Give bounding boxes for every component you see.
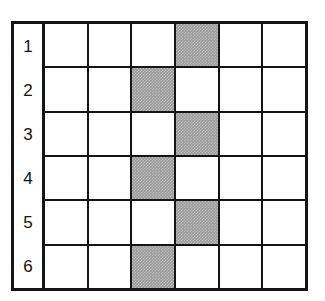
grid-row — [45, 24, 305, 68]
row-label-5: 5 — [14, 200, 42, 244]
row-label-column: 1 2 3 4 5 6 — [14, 24, 45, 288]
grid-cell-empty — [132, 201, 176, 243]
grid-cell-shaded — [132, 68, 176, 110]
grid-cell-empty — [263, 201, 305, 243]
grid-cell-empty — [89, 68, 133, 110]
grid-cell-empty — [220, 113, 264, 155]
grid-cell-empty — [89, 157, 133, 199]
grid-cell-shaded — [176, 113, 220, 155]
grid-cell-empty — [176, 68, 220, 110]
grid-cell-empty — [132, 113, 176, 155]
grid-cell-empty — [263, 113, 305, 155]
grid-cell-empty — [45, 246, 89, 288]
grid-cell-empty — [220, 246, 264, 288]
grid-cell-empty — [89, 201, 133, 243]
grid-row — [45, 113, 305, 157]
grid-cell-empty — [45, 113, 89, 155]
grid-cell-empty — [89, 24, 133, 66]
row-label-4: 4 — [14, 156, 42, 200]
grid-row — [45, 68, 305, 112]
grid-cell-empty — [176, 157, 220, 199]
grid-cell-empty — [263, 157, 305, 199]
row-label-1: 1 — [14, 24, 42, 68]
grid-cell-empty — [89, 113, 133, 155]
cell-matrix — [45, 24, 305, 288]
grid-cell-shaded — [132, 246, 176, 288]
grid-row — [45, 246, 305, 288]
grid-cell-empty — [176, 246, 220, 288]
grid-row — [45, 201, 305, 245]
grid-cell-empty — [220, 157, 264, 199]
grid-row — [45, 157, 305, 201]
grid-cell-empty — [263, 246, 305, 288]
grid-cell-empty — [263, 24, 305, 66]
grid-cell-empty — [132, 24, 176, 66]
row-label-3: 3 — [14, 112, 42, 156]
grid-cell-empty — [89, 246, 133, 288]
grid-cell-empty — [220, 201, 264, 243]
grid-cell-shaded — [132, 157, 176, 199]
row-label-6: 6 — [14, 244, 42, 288]
grid-cell-empty — [45, 201, 89, 243]
row-label-2: 2 — [14, 68, 42, 112]
grid-cell-empty — [45, 157, 89, 199]
grid-cell-empty — [220, 68, 264, 110]
grid-cell-shaded — [176, 201, 220, 243]
grid-cell-empty — [263, 68, 305, 110]
grid-cell-empty — [220, 24, 264, 66]
grid-cell-shaded — [176, 24, 220, 66]
grid-cell-empty — [45, 24, 89, 66]
grid-cell-empty — [45, 68, 89, 110]
grid-diagram: 1 2 3 4 5 6 — [11, 21, 308, 291]
